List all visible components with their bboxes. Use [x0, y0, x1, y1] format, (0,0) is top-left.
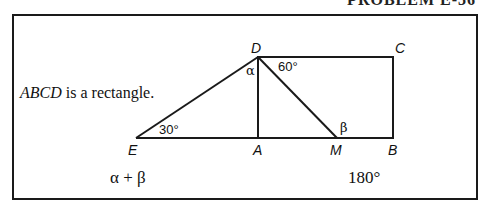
- angle-beta-label: β: [340, 120, 348, 135]
- angle-cdm-label: 60°: [278, 59, 298, 74]
- quantity-b: 180°: [348, 168, 380, 188]
- label-m: M: [330, 142, 342, 158]
- geometry-figure: D C E A M B 30° 60° α β: [0, 0, 488, 212]
- label-c: C: [395, 40, 406, 56]
- segment-ed: [136, 57, 258, 138]
- label-e: E: [128, 142, 138, 158]
- label-d: D: [251, 40, 261, 56]
- angle-e-label: 30°: [159, 122, 179, 137]
- quantity-a: α + β: [110, 168, 146, 188]
- label-b: B: [388, 142, 397, 158]
- angle-alpha-label: α: [246, 63, 255, 78]
- label-a: A: [252, 142, 262, 158]
